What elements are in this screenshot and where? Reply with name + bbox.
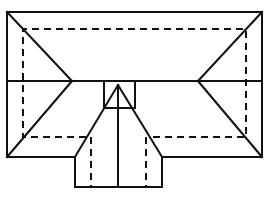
- hip-line-top-right: [198, 12, 262, 81]
- hip-line-top-left: [7, 12, 72, 81]
- hip-line-bottom-right: [198, 81, 262, 157]
- hip-line-bottom-left: [7, 81, 72, 157]
- valley-line-left: [75, 85, 118, 157]
- valley-line-right: [118, 85, 162, 157]
- roof-plan-diagram: [0, 0, 275, 204]
